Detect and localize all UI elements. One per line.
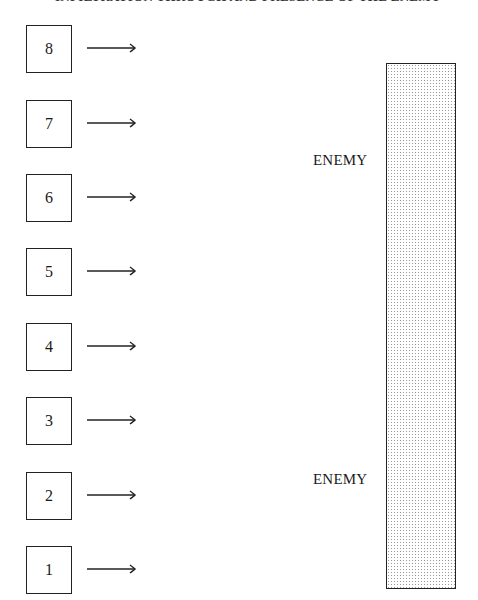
unit-row-1: 1 xyxy=(26,546,146,594)
unit-row-3: 3 xyxy=(26,397,146,445)
arrow-right-icon xyxy=(87,264,137,278)
arrow-right-icon xyxy=(87,190,137,204)
diagram-title: INFILTRATION THROUGH AND PRESENCE OF THE… xyxy=(55,0,435,5)
unit-row-4: 4 xyxy=(26,323,146,371)
unit-box: 8 xyxy=(26,25,72,73)
arrow-right-icon xyxy=(87,413,137,427)
unit-row-2: 2 xyxy=(26,472,146,520)
unit-box: 6 xyxy=(26,174,72,222)
unit-box: 7 xyxy=(26,100,72,148)
unit-row-5: 5 xyxy=(26,248,146,296)
enemy-position-block xyxy=(386,63,456,589)
arrow-right-icon xyxy=(87,339,137,353)
enemy-label-bottom: ENEMY xyxy=(313,471,367,488)
unit-box: 4 xyxy=(26,323,72,371)
arrow-right-icon xyxy=(87,41,137,55)
arrow-right-icon xyxy=(87,488,137,502)
unit-box: 5 xyxy=(26,248,72,296)
unit-box: 2 xyxy=(26,472,72,520)
arrow-right-icon xyxy=(87,562,137,576)
unit-row-7: 7 xyxy=(26,100,146,148)
unit-row-6: 6 xyxy=(26,174,146,222)
unit-box: 1 xyxy=(26,546,72,594)
unit-box: 3 xyxy=(26,397,72,445)
unit-row-8: 8 xyxy=(26,25,146,73)
enemy-label-top: ENEMY xyxy=(313,152,367,169)
arrow-right-icon xyxy=(87,116,137,130)
